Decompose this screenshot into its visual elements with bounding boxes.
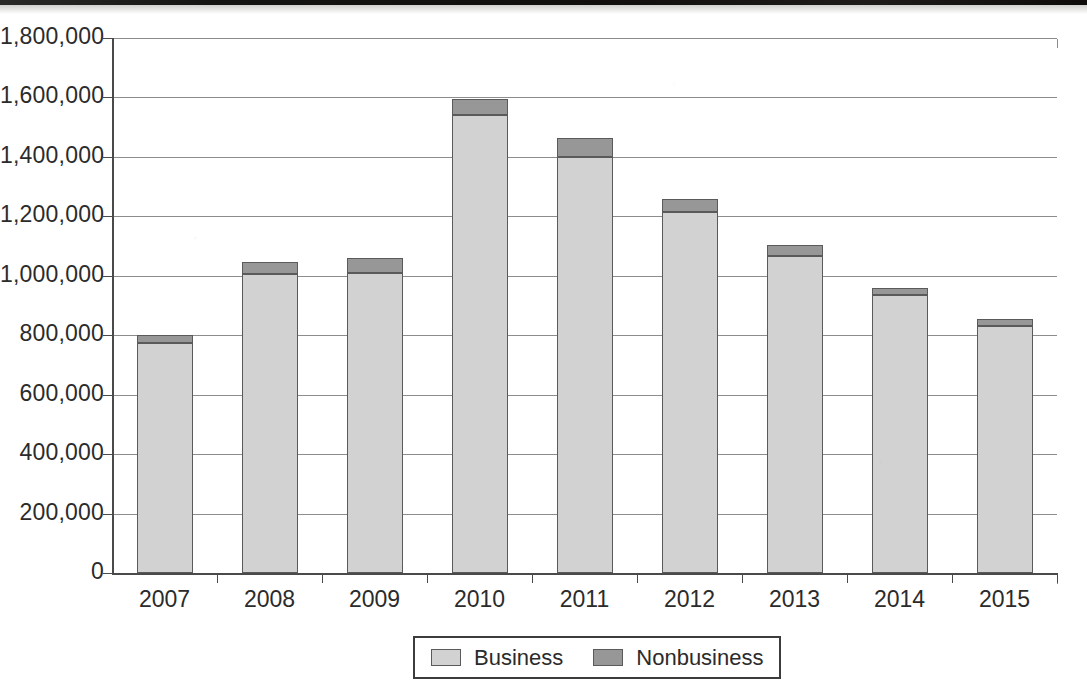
bar-2010[interactable] [452, 99, 508, 573]
y-axis-label: 1,800,000 [0, 23, 104, 50]
bar-segment-nonbusiness-2009[interactable] [347, 258, 403, 273]
x-axis-label-2007: 2007 [139, 586, 190, 613]
y-tick [103, 573, 112, 574]
bar-segment-nonbusiness-2007[interactable] [137, 335, 193, 342]
y-axis-line [112, 38, 114, 573]
legend-swatch-nonbusiness [593, 649, 623, 666]
bar-segment-business-2012[interactable] [662, 212, 718, 573]
y-axis-label: 200,000 [0, 499, 104, 526]
bar-segment-business-2010[interactable] [452, 115, 508, 573]
chart-legend: BusinessNonbusiness [413, 636, 781, 679]
bar-segment-business-2007[interactable] [137, 343, 193, 573]
y-axis-label: 800,000 [0, 320, 104, 347]
bar-2012[interactable] [662, 199, 718, 574]
x-axis-label-2012: 2012 [664, 586, 715, 613]
x-tick [322, 573, 323, 583]
bar-2013[interactable] [767, 245, 823, 573]
y-axis-labels: 0200,000400,000600,000800,0001,000,0001,… [0, 38, 104, 573]
x-axis-label-2014: 2014 [874, 586, 925, 613]
legend-label-business: Business [474, 645, 563, 671]
y-axis-label: 1,400,000 [0, 142, 104, 169]
gridline-end-stub [1057, 39, 1058, 48]
x-axis-label-2015: 2015 [979, 586, 1030, 613]
bar-2014[interactable] [872, 288, 928, 573]
bar-segment-nonbusiness-2013[interactable] [767, 245, 823, 257]
x-tick [742, 573, 743, 583]
y-tick [103, 335, 112, 336]
bar-2008[interactable] [242, 262, 298, 573]
plot-area [112, 38, 1057, 573]
bar-segment-business-2011[interactable] [557, 157, 613, 573]
x-axis-label-2011: 2011 [560, 586, 609, 613]
gridline-0 [112, 573, 1057, 575]
bar-segment-business-2015[interactable] [977, 326, 1033, 573]
y-tick [103, 216, 112, 217]
y-tick [103, 97, 112, 98]
x-tick [637, 573, 638, 583]
y-axis-label: 1,200,000 [0, 201, 104, 228]
bar-segment-nonbusiness-2014[interactable] [872, 288, 928, 295]
bar-2007[interactable] [137, 335, 193, 573]
bar-2009[interactable] [347, 258, 403, 573]
x-tick [217, 573, 218, 583]
bar-segment-business-2014[interactable] [872, 295, 928, 573]
y-axis-label: 0 [0, 558, 104, 585]
bar-segment-nonbusiness-2008[interactable] [242, 262, 298, 274]
y-tick [103, 157, 112, 158]
x-axis-labels: 200720082009201020112012201320142015 [112, 586, 1057, 620]
gridline-1800000 [112, 38, 1057, 39]
stacked-bar-chart: 0200,000400,000600,000800,0001,000,0001,… [0, 0, 1087, 700]
bar-segment-business-2013[interactable] [767, 256, 823, 573]
y-axis-label: 600,000 [0, 380, 104, 407]
x-axis-label-2010: 2010 [454, 586, 505, 613]
y-tick [103, 276, 112, 277]
gridline-1600000 [112, 97, 1057, 98]
x-tick [532, 573, 533, 583]
x-axis-label-2013: 2013 [769, 586, 820, 613]
bar-2011[interactable] [557, 138, 613, 573]
y-tick [103, 38, 112, 39]
legend-entry-nonbusiness[interactable]: Nonbusiness [593, 645, 763, 671]
y-tick [103, 454, 112, 455]
x-tick [847, 573, 848, 583]
legend-swatch-business [431, 649, 461, 666]
x-tick [1057, 573, 1058, 583]
x-axis-label-2009: 2009 [349, 586, 400, 613]
y-tick [103, 514, 112, 515]
bar-segment-nonbusiness-2010[interactable] [452, 99, 508, 115]
bar-2015[interactable] [977, 319, 1033, 573]
y-axis-label: 1,000,000 [0, 261, 104, 288]
x-tick [427, 573, 428, 583]
legend-label-nonbusiness: Nonbusiness [636, 645, 763, 671]
x-tick [952, 573, 953, 583]
bar-segment-business-2008[interactable] [242, 274, 298, 573]
x-axis-label-2008: 2008 [244, 586, 295, 613]
bar-segment-nonbusiness-2012[interactable] [662, 199, 718, 212]
y-axis-label: 1,600,000 [0, 82, 104, 109]
legend-entry-business[interactable]: Business [431, 645, 563, 671]
y-axis-label: 400,000 [0, 439, 104, 466]
bar-segment-nonbusiness-2015[interactable] [977, 319, 1033, 326]
y-tick [103, 395, 112, 396]
bar-segment-nonbusiness-2011[interactable] [557, 138, 613, 157]
bar-segment-business-2009[interactable] [347, 273, 403, 573]
